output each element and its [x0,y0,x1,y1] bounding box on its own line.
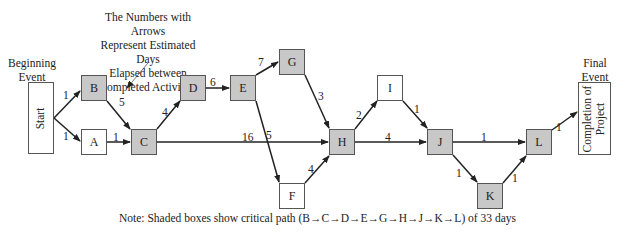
start-text: Start [34,107,47,129]
node-l: L [526,129,552,155]
node-i: I [377,75,403,101]
node-h: H [329,129,355,155]
weight-b-c: 5 [119,96,125,108]
weight-j-k: 1 [456,167,462,179]
weight-h-j: 4 [385,131,391,143]
node-g: G [279,49,305,75]
weight-start-a: 1 [63,130,69,142]
weight-k-l: 1 [512,172,518,184]
node-e: E [230,75,256,101]
weight-c-d: 4 [162,106,168,118]
weight-f-h: 4 [308,163,314,175]
weight-j-l: 1 [481,131,487,143]
completion-line: Project [595,85,608,152]
node-a: A [81,129,107,155]
node-c: C [131,129,157,155]
node-b: B [81,75,107,101]
weight-g-h: 3 [318,90,324,102]
completion-line: Completion of [582,85,595,152]
weight-e-g: 7 [258,56,264,68]
annotation-line: Represent Estimated Days [88,38,208,66]
node-j: J [427,129,453,155]
completion-text: Completion of Project [582,85,608,152]
edge-g-h [305,75,329,128]
completion-box: Completion of Project [578,82,611,155]
start-box: Start [28,82,54,154]
label-line: Final [574,56,616,70]
node-d: D [180,75,206,101]
beginning-event-label: Beginning Event [6,56,58,84]
node-k: K [477,183,503,209]
node-f: F [279,183,305,209]
weight-d-e: 6 [210,76,216,88]
weight-e-f: 5 [266,129,272,141]
weight-c-h: 16 [242,131,254,143]
label-line: Beginning [6,56,58,70]
critical-path-note: Note: Shaded boxes show critical path (B… [0,212,635,224]
weight-a-c: 1 [113,131,119,143]
weight-start-b: 1 [63,89,69,101]
final-event-label: Final Event [574,56,616,84]
weight-h-i: 2 [356,109,362,121]
weight-i-j: 1 [414,103,420,115]
weight-l-completion: 1 [556,121,562,133]
edge-c-d [157,101,180,129]
annotation-line: The Numbers with Arrows [88,10,208,38]
